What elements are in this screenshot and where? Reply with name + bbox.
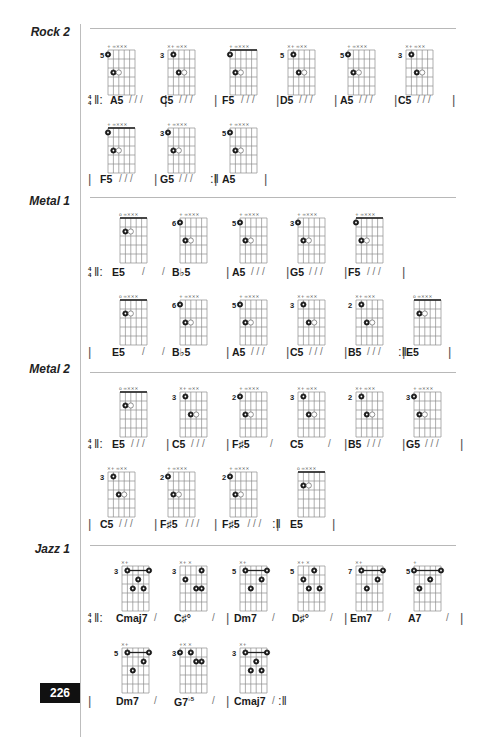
chord-symbol: C5 xyxy=(398,94,411,106)
chord-diagram-c5: ×+ ∞×× 3 xyxy=(172,384,218,440)
chord-symbol: Dm7 xyxy=(234,612,257,624)
strum-slashes: / / / xyxy=(251,346,265,357)
chord-diagram-g5: + ∞××× 3 xyxy=(160,120,206,176)
bar-line: | xyxy=(344,264,347,279)
svg-text:+ ∞×××: + ∞××× xyxy=(229,466,249,471)
svg-text:+ ∞×××: + ∞××× xyxy=(167,122,187,127)
chord-symbol: B♭5 xyxy=(172,266,190,278)
svg-text:+ ∞×××: + ∞××× xyxy=(297,212,317,217)
strum-slashes: / / / xyxy=(367,266,381,277)
chord-progression-line: |E5/B♭5/|A5/ / /|C5/ / /|B5/ / /|:‖E5| xyxy=(88,346,468,362)
svg-text:+ ∞×××: + ∞××× xyxy=(239,294,259,299)
bar-line: | xyxy=(214,92,217,107)
svg-text:×+ ∞××: ×+ ∞×× xyxy=(355,294,375,299)
chord-symbol: E5 xyxy=(290,518,303,530)
bar-line: | xyxy=(88,344,91,359)
svg-text:5: 5 xyxy=(114,649,118,658)
svg-text:3: 3 xyxy=(398,51,402,60)
bar-line: | xyxy=(154,171,157,186)
chord-symbol: F♯5 xyxy=(160,518,178,530)
bar-line: | xyxy=(286,344,289,359)
bar-line: | xyxy=(166,436,169,451)
chord-symbol: B5 xyxy=(348,346,361,358)
bar-line: | xyxy=(276,92,279,107)
strum-slashes: / / / xyxy=(359,94,373,105)
svg-text:2: 2 xyxy=(348,393,352,402)
svg-text:3: 3 xyxy=(232,649,236,658)
chord-diagram-dm7: ×+5 xyxy=(114,640,160,696)
chord-symbol: F5 xyxy=(100,173,112,185)
svg-text:2: 2 xyxy=(222,473,226,482)
svg-text:5: 5 xyxy=(232,301,236,310)
chord-symbol: E5 xyxy=(112,346,125,358)
chord-progression-line: |F5/ / /|G5/ / /|:‖A5| xyxy=(88,173,468,189)
svg-text:×+: ×+ xyxy=(239,642,247,647)
repeat-end-sign: :‖ xyxy=(210,171,219,186)
svg-text:×+ ∞××: ×+ ∞×× xyxy=(297,386,317,391)
svg-text:+ ∞×××: + ∞××× xyxy=(239,386,259,391)
time-signature-bottom: 4 xyxy=(88,272,91,278)
chord-symbol: G5 xyxy=(160,173,174,185)
section-title-rock-2: Rock 2 xyxy=(31,25,70,39)
chord-symbol: F5 xyxy=(222,94,234,106)
chord-symbol: Em7 xyxy=(350,612,372,624)
svg-text:×+ ∞××: ×+ ∞×× xyxy=(405,44,425,49)
chord-diagram-f5: + ∞××× xyxy=(348,210,394,266)
chord-diagram-e5: o ∞××× xyxy=(290,464,336,520)
time-signature-bottom: 4 xyxy=(88,444,91,450)
chord-diagram-dm7: ×+5 xyxy=(232,558,278,614)
svg-text:5: 5 xyxy=(340,51,344,60)
bar-line: | xyxy=(226,436,229,451)
bar-line: | xyxy=(452,92,455,107)
chord-symbol: C5 xyxy=(100,518,113,530)
chord-symbol: A5 xyxy=(232,266,245,278)
time-signature-bottom: 4 xyxy=(88,100,91,106)
svg-text:+ ∞×××: + ∞××× xyxy=(413,386,433,391)
final-bar-line: | xyxy=(264,171,267,186)
svg-text:5: 5 xyxy=(280,51,284,60)
bar-line: | xyxy=(402,436,405,451)
chord-symbol: B♭5 xyxy=(172,346,190,358)
chord-diagram-b5: + ∞××× 6 xyxy=(172,292,218,348)
svg-text:o ∞×××: o ∞××× xyxy=(119,212,138,217)
svg-text:×+: ×+ xyxy=(239,560,247,565)
strum-slashes: / / / xyxy=(131,438,145,449)
strum-slashes: / / / xyxy=(179,173,193,184)
chord-diagram-a5: + ∞××× 5 xyxy=(100,42,146,98)
strum-slashes: / / / xyxy=(179,94,193,105)
chord-diagram-em7: ×+7 xyxy=(348,558,394,614)
svg-text:×+ ∞××: ×+ ∞×× xyxy=(287,44,307,49)
chord-symbol: C5 xyxy=(160,94,173,106)
svg-text:×+ ∞××: ×+ ∞×× xyxy=(355,386,375,391)
bar-line: | xyxy=(460,610,463,625)
chord-symbol: F♯5 xyxy=(222,518,240,530)
strum-slashes: / / / xyxy=(119,173,133,184)
svg-text:×+ ×: ×+ × xyxy=(297,560,310,565)
final-bar-line: | xyxy=(332,516,335,531)
time-signature: 44 xyxy=(88,94,91,106)
svg-text:+ ∞×××: + ∞××× xyxy=(239,212,259,217)
bar-line: | xyxy=(88,171,91,186)
svg-text:5: 5 xyxy=(406,567,410,576)
chord-diagram-c5: ×+ ∞×× 3 xyxy=(290,384,336,440)
bar-line: | xyxy=(402,264,405,279)
strum-slash: / xyxy=(270,438,273,449)
time-signature: 44 xyxy=(88,612,91,624)
svg-text:2: 2 xyxy=(232,393,236,402)
repeat-start-sign: ‖: xyxy=(94,436,103,451)
chord-diagram-c5: ×+ ∞×× 3 xyxy=(398,42,444,98)
margin-rule xyxy=(80,24,81,737)
chord-diagram-a7: +5 xyxy=(406,558,452,614)
chord-symbol: E5 xyxy=(112,266,125,278)
svg-text:3: 3 xyxy=(172,649,176,658)
chord-symbol: A5 xyxy=(340,94,353,106)
strum-slashes: / / / xyxy=(309,266,323,277)
svg-text:×+: ×+ xyxy=(355,560,363,565)
section-title-metal-1: Metal 1 xyxy=(29,194,70,208)
svg-text:3: 3 xyxy=(160,51,164,60)
svg-text:5: 5 xyxy=(222,129,226,138)
chord-symbol: C5 xyxy=(290,346,303,358)
bar-line: | xyxy=(226,264,229,279)
svg-text:3: 3 xyxy=(160,129,164,138)
chord-diagram-e5: o ∞××× xyxy=(112,210,158,266)
